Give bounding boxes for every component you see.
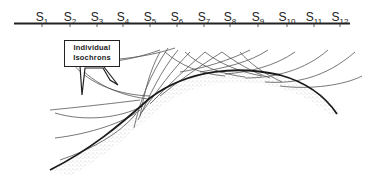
callout-line-2: Isochrons	[65, 53, 119, 63]
station-label-1: S1	[36, 10, 48, 26]
station-label-8: S8	[224, 10, 236, 26]
station-label-3: S3	[91, 10, 103, 26]
callout-line-1: Individual	[65, 43, 119, 53]
station-label-11: S11	[306, 10, 322, 26]
station-label-7: S7	[198, 10, 210, 26]
station-label-5: S5	[144, 10, 156, 26]
stippled-layer	[50, 70, 340, 176]
isochrons-callout: Individual Isochrons	[64, 40, 120, 67]
isochron-diagram	[0, 0, 390, 181]
station-label-2: S2	[64, 10, 76, 26]
station-label-6: S6	[171, 10, 183, 26]
station-label-4: S4	[117, 10, 129, 26]
station-label-12: S12	[332, 10, 349, 26]
station-label-10: S10	[279, 10, 296, 26]
station-label-9: S9	[252, 10, 264, 26]
callout-pointer	[80, 66, 118, 95]
